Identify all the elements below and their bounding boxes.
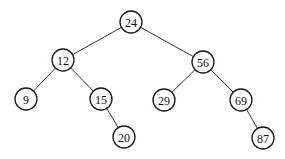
node-label: 87 xyxy=(257,132,269,146)
tree-node-24: 24 xyxy=(120,11,142,33)
edge-69-87 xyxy=(247,110,258,129)
node-label: 56 xyxy=(197,56,209,70)
tree-node-56: 56 xyxy=(192,51,214,73)
tree-node-15: 15 xyxy=(90,88,112,110)
binary-tree-diagram: 24125691529692087 xyxy=(0,0,285,159)
edge-24-56 xyxy=(141,27,194,56)
node-label: 24 xyxy=(125,16,137,30)
node-label: 9 xyxy=(23,93,29,107)
tree-node-29: 29 xyxy=(153,89,175,111)
edge-56-69 xyxy=(211,70,233,92)
tree-node-12: 12 xyxy=(52,49,74,71)
node-label: 12 xyxy=(57,54,69,68)
node-label: 20 xyxy=(118,131,130,145)
tree-node-69: 69 xyxy=(230,89,252,111)
edge-12-9 xyxy=(34,68,56,91)
node-label: 15 xyxy=(95,93,107,107)
tree-edges xyxy=(34,27,258,128)
tree-node-9: 9 xyxy=(15,88,37,110)
edge-15-20 xyxy=(107,108,119,127)
tree-node-87: 87 xyxy=(252,127,274,149)
node-label: 29 xyxy=(158,94,170,108)
edge-12-15 xyxy=(71,68,94,91)
tree-node-20: 20 xyxy=(113,126,135,148)
tree-nodes: 24125691529692087 xyxy=(15,11,274,149)
node-label: 69 xyxy=(235,94,247,108)
edge-56-29 xyxy=(172,70,195,93)
edge-24-12 xyxy=(73,27,122,54)
